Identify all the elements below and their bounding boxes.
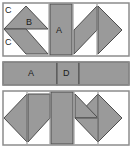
middle-panel	[2, 61, 130, 86]
rectangle-tail-middle	[79, 62, 129, 85]
dissection-figure: C B C A A D	[0, 0, 132, 148]
rectangle-d-middle	[57, 62, 79, 85]
rectangle-center-bottom	[51, 92, 73, 144]
rectangle-a-middle	[3, 62, 57, 85]
top-panel	[2, 2, 130, 57]
rectangle-a-top	[50, 4, 72, 55]
bottom-panel	[2, 90, 130, 146]
